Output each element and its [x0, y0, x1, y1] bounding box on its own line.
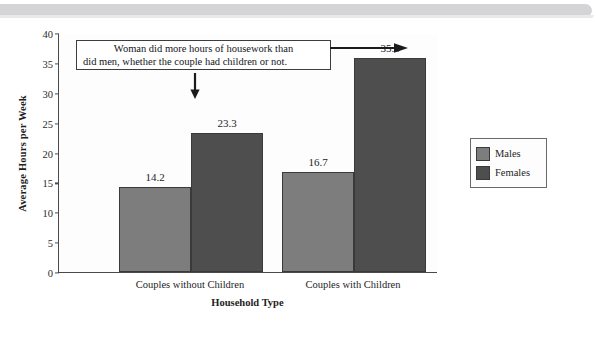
bar [119, 187, 191, 272]
bar-value-label: 16.7 [308, 156, 327, 168]
arrow-down-icon [190, 73, 200, 99]
y-tick-label: 35 [13, 58, 59, 69]
y-tick-mark [55, 213, 59, 214]
bar [191, 133, 263, 272]
y-tick-label: 0 [13, 268, 59, 279]
bar [282, 172, 354, 272]
header-band-shadow [0, 15, 594, 18]
legend-item[interactable]: Females [476, 163, 541, 182]
y-tick-label: 15 [13, 178, 59, 189]
y-tick-label: 20 [13, 148, 59, 159]
annotation-line-2: did men, whether the couple had children… [83, 55, 324, 68]
y-tick-mark [55, 63, 59, 64]
x-axis-title: Household Type [58, 297, 437, 308]
bar-value-label: 14.2 [145, 171, 164, 183]
y-tick-mark [55, 93, 59, 94]
legend-swatch [476, 147, 490, 161]
y-tick-mark [55, 123, 59, 124]
y-tick-label: 25 [13, 118, 59, 129]
y-tick-label: 30 [13, 88, 59, 99]
y-tick-label: 5 [13, 238, 59, 249]
y-tick-mark [55, 183, 59, 184]
legend-label: Males [495, 148, 521, 159]
arrow-right-icon [330, 42, 408, 54]
x-axis-tick-label: Couples with Children [305, 279, 400, 290]
legend-label: Females [495, 167, 530, 178]
y-tick-mark [55, 243, 59, 244]
legend-swatch [476, 166, 490, 180]
bar [354, 58, 426, 272]
legend-items: MalesFemales [476, 144, 541, 182]
legend: MalesFemales [470, 138, 547, 188]
annotation-callout: Woman did more hours of housework than d… [76, 40, 331, 70]
y-tick-mark [55, 272, 59, 273]
legend-item[interactable]: Males [476, 144, 541, 163]
chart-page: Average Hours per Week 0510152025303540 … [0, 0, 596, 338]
y-tick-mark [55, 153, 59, 154]
y-tick-label: 10 [13, 208, 59, 219]
bar-value-label: 23.3 [217, 117, 236, 129]
x-axis-tick-label: Couples without Children [136, 279, 245, 290]
y-tick-mark [55, 33, 59, 34]
annotation-line-1: Woman did more hours of housework than [83, 42, 324, 55]
y-tick-label: 40 [13, 29, 59, 40]
